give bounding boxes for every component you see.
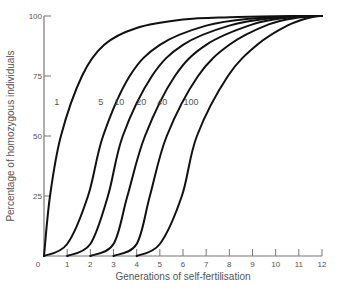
curve-10: [67, 16, 322, 256]
x-tick-label: 7: [204, 260, 209, 269]
x-tick-label: 9: [250, 260, 255, 269]
curve-label-40: 40: [157, 97, 167, 107]
x-tick-label: 3: [111, 260, 116, 269]
curve-label-1: 1: [54, 97, 59, 107]
axes: 0123456789101112255075100: [29, 12, 327, 269]
x-tick-label: 6: [181, 260, 186, 269]
x-tick-label: 2: [88, 260, 93, 269]
curve-label-10: 10: [114, 97, 124, 107]
curve-5: [44, 16, 322, 256]
x-axis-label: Generations of self-fertilisation: [115, 271, 250, 282]
y-tick-label: 75: [33, 72, 42, 81]
curve-label-100: 100: [184, 97, 199, 107]
x-tick-label: 11: [295, 260, 304, 269]
curve-label-20: 20: [136, 97, 146, 107]
curve-20: [90, 16, 322, 256]
curves: [44, 16, 322, 256]
y-tick-label: 50: [33, 132, 42, 141]
y-tick-label: 25: [33, 192, 42, 201]
x-tick-label: 12: [318, 260, 327, 269]
x-tick-label: 5: [158, 260, 163, 269]
curve-label-5: 5: [98, 97, 103, 107]
y-axis-label: Percentage of homozygous individuals: [5, 50, 16, 221]
curve-1: [44, 16, 322, 256]
chart-canvas: 0123456789101112255075100 15102040100 Ge…: [0, 0, 338, 293]
x-tick-label: 8: [227, 260, 232, 269]
curve-100: [137, 16, 322, 256]
y-tick-label: 100: [29, 12, 43, 21]
x-tick-label: 4: [134, 260, 139, 269]
x-tick-label: 0: [36, 260, 41, 269]
x-tick-label: 1: [65, 260, 70, 269]
homozygosity-chart: 0123456789101112255075100 15102040100 Ge…: [0, 0, 338, 293]
x-tick-label: 10: [271, 260, 280, 269]
curve-labels: 15102040100: [54, 97, 198, 107]
